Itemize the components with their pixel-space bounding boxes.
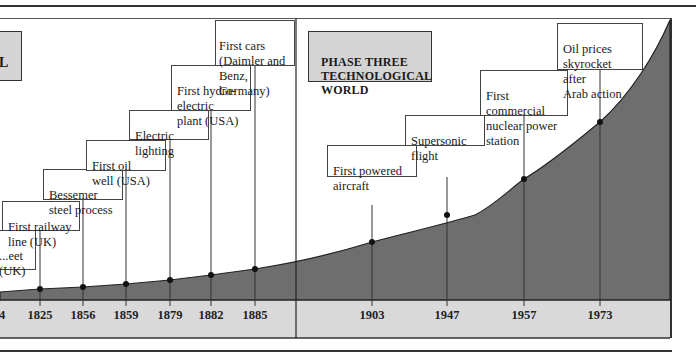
axis-band [0,300,670,338]
year-label: 1825 [28,308,53,323]
year-label: 1882 [199,308,224,323]
year-label: 1859 [114,308,139,323]
event-label: Bessemer steel process [49,188,113,217]
phase-three-label-box: PHASE THREE TECHNOLOGICAL WORLD [308,31,432,82]
event-label: First oil well (USA) [92,159,150,188]
event-label: ...eet (UK) [0,249,25,278]
event-label: Electric lighting [135,129,174,158]
event-box-1973: Oil prices skyrocket after Arab action [557,23,643,70]
year-label: 1856 [71,308,96,323]
year-label: 1957 [512,308,537,323]
event-box-1903: First powered aircraft [327,145,417,177]
event-box-1947: Supersonic flight [405,115,485,146]
event-box-1957: First commercial nuclear power station [480,70,568,116]
phase-two-label-box: L [0,31,22,81]
year-label: 1973 [588,308,613,323]
year-label: 1903 [360,308,385,323]
year-label: 4 [0,308,5,323]
year-label: 1879 [158,308,183,323]
phase-two-partial-text: L [0,55,9,70]
year-label: 1885 [243,308,268,323]
year-label: 1947 [435,308,460,323]
event-box-1885: First cars (Daimler and Benz, Germany) [215,20,295,66]
